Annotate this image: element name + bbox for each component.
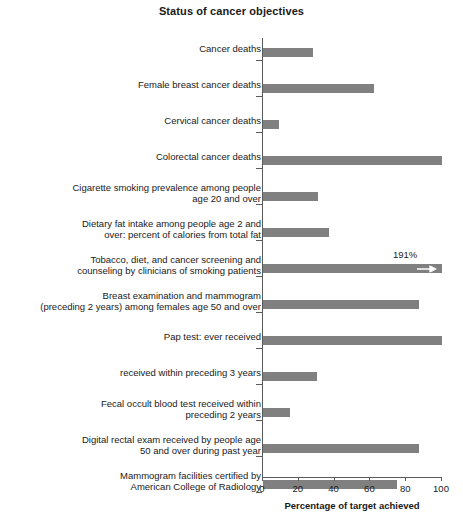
bar-row: Cigarette smoking prevalence among peopl… [0, 182, 463, 218]
bar [263, 300, 419, 309]
bar [263, 84, 374, 93]
chart-title: Status of cancer objectives [0, 5, 463, 17]
bar [263, 264, 442, 273]
category-label: received within preceding 3 years [11, 367, 261, 379]
bar-row: Female breast cancer deaths [0, 74, 463, 110]
bar [263, 336, 442, 345]
category-label: Mammogram facilities certified by Americ… [11, 470, 261, 493]
bar [263, 408, 290, 417]
bar-row: Pap test: ever received [0, 326, 463, 362]
y-axis-tick [256, 384, 262, 385]
x-axis-tick-mark [334, 477, 335, 481]
category-label: Dietary fat intake among people age 2 an… [11, 218, 261, 241]
y-axis-tick [256, 240, 262, 241]
bar [263, 156, 442, 165]
x-axis-tick-mark [298, 477, 299, 481]
y-axis-tick [256, 420, 262, 421]
bar [263, 48, 313, 57]
bar-row: Fecal occult blood test received within … [0, 398, 463, 434]
y-axis-tick [256, 456, 262, 457]
y-axis-tick [256, 96, 262, 97]
category-label: Cigarette smoking prevalence among peopl… [11, 182, 261, 205]
y-axis-tick [256, 276, 262, 277]
category-label: Pap test: ever received [11, 331, 261, 343]
category-label: Cancer deaths [11, 43, 261, 55]
x-axis-tick-mark [369, 477, 370, 481]
category-label: Fecal occult blood test received within … [11, 398, 261, 421]
x-axis-title: Percentage of target achieved [262, 500, 442, 511]
x-axis-tick-label: 60 [349, 483, 389, 494]
category-label: Digital rectal exam received by people a… [11, 434, 261, 457]
overflow-value-label: 191% [393, 249, 417, 260]
category-label: Colorectal cancer deaths [11, 151, 261, 163]
bar-row: Colorectal cancer deaths [0, 146, 463, 182]
bar-row: Cancer deaths [0, 38, 463, 74]
y-axis-tick [256, 312, 262, 313]
x-axis-tick-label: 0 [242, 483, 282, 494]
category-label: Tobacco, diet, and cancer screening and … [11, 254, 261, 277]
bar-row: Cervical cancer deaths [0, 110, 463, 146]
y-axis-tick [256, 132, 262, 133]
bar-row: Breast examination and mammogram (preced… [0, 290, 463, 326]
x-axis-tick-label: 100 [421, 483, 461, 494]
y-axis-tick [256, 348, 262, 349]
category-label: Breast examination and mammogram (preced… [11, 290, 261, 313]
bar [263, 192, 318, 201]
bar [263, 120, 279, 129]
x-axis-tick-label: 80 [385, 483, 425, 494]
overflow-arrow-icon [417, 265, 439, 272]
bar-row: received within preceding 3 years [0, 362, 463, 398]
chart-figure: Status of cancer objectives Cancer death… [0, 0, 463, 522]
bar [263, 228, 329, 237]
y-axis-tick [256, 60, 262, 61]
x-axis-tick-label: 20 [278, 483, 318, 494]
x-axis-tick-mark [441, 477, 442, 481]
bar-row: Digital rectal exam received by people a… [0, 434, 463, 470]
x-axis-tick-mark [405, 477, 406, 481]
y-axis-tick [256, 168, 262, 169]
x-axis-tick-mark [262, 477, 263, 481]
category-label: Female breast cancer deaths [11, 79, 261, 91]
y-axis-tick [256, 204, 262, 205]
category-label: Cervical cancer deaths [11, 115, 261, 127]
bar [263, 444, 419, 453]
x-axis-tick-label: 40 [314, 483, 354, 494]
bar [263, 372, 317, 381]
